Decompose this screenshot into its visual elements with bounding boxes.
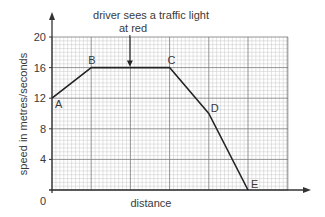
x-axis-label: distance [131,197,172,209]
x-axis-arrow-icon [303,187,311,193]
y-axis-arrow-icon [49,12,55,20]
chart-title-line-1: driver sees a traffic light [93,9,209,21]
y-tick-label: 4 [40,153,46,165]
origin-label: 0 [40,195,46,207]
y-axis-ticks: 48121620 [34,31,52,165]
y-tick-label: 16 [34,62,46,74]
point-label-a: A [55,98,63,110]
speed-distance-chart: 48121620 ABCDE driver sees a traffic lig… [0,0,325,217]
y-tick-label: 20 [34,31,46,43]
y-tick-label: 12 [34,92,46,104]
point-label-e: E [251,178,258,190]
point-label-c: C [168,54,176,66]
point-label-b: B [88,54,95,66]
y-tick-label: 8 [40,123,46,135]
chart-title-line-2: at red [119,22,147,34]
point-labels: ABCDE [55,54,258,190]
y-axis-label: speed in metres/seconds [17,52,29,175]
chart-canvas: 48121620 ABCDE driver sees a traffic lig… [0,0,325,217]
annotation-arrow [127,35,133,67]
point-label-d: D [211,102,219,114]
